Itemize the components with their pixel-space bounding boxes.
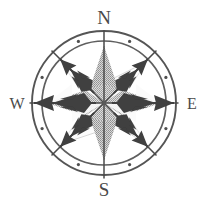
ring-tick-dot (128, 163, 131, 166)
cardinal-label-east: E (187, 95, 197, 112)
ring-tick-dot (77, 40, 80, 43)
compass-center-hub (102, 101, 106, 105)
ring-tick-dot (41, 127, 44, 130)
ring-tick-dot (41, 76, 44, 79)
ring-tick-dot (164, 76, 167, 79)
ring-tick-dot (128, 40, 131, 43)
ring-tick-dot (164, 127, 167, 130)
cardinal-label-north: N (97, 7, 111, 28)
ring-tick-dot (77, 163, 80, 166)
cardinal-label-west: W (9, 95, 25, 112)
compass-rose-graphic: N E S W (0, 0, 209, 209)
compass-rose-figure: N E S W (0, 0, 209, 209)
cardinal-label-south: S (99, 179, 110, 200)
